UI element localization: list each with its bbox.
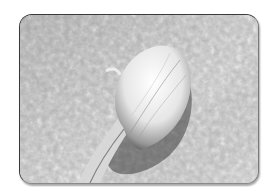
micrograph-frame: SEM micrograph [19,14,259,184]
micrograph-image [20,15,258,183]
